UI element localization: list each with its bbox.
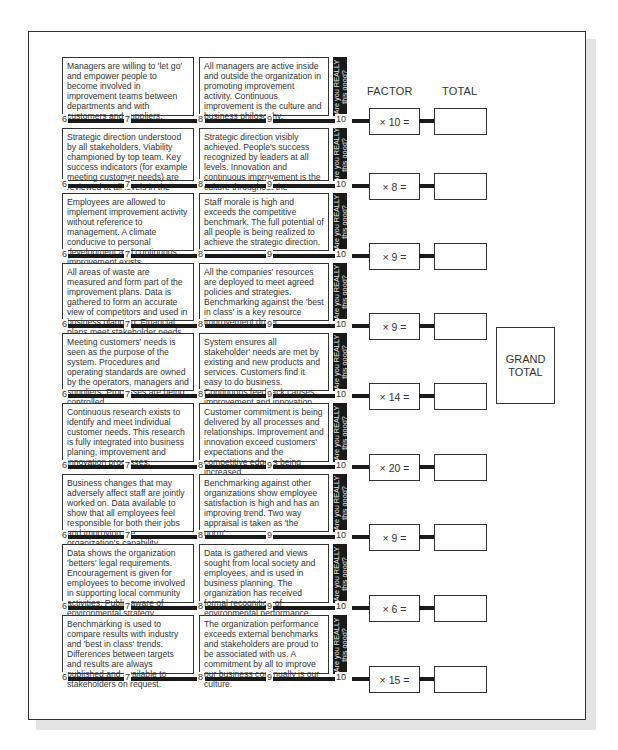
score-scale[interactable]: 6 7 8 9 10 [62,251,354,259]
connector-line [419,535,435,539]
connector-line [419,606,435,610]
scale-bar-8-10[interactable] [205,184,343,188]
total-input-box[interactable] [434,666,487,693]
scale-bar-8-10[interactable] [205,535,343,539]
score-scale[interactable]: 6 7 8 9 10 [62,462,354,470]
scale-label-8: 8 [197,672,204,682]
factor-box: × 9 = [369,524,420,551]
factor-value: × 6 = [383,603,407,615]
factor-box: × 10 = [369,108,420,135]
level-8-9-description: Strategic direction visibly achieved. Pe… [199,128,329,181]
scale-bar-6-8[interactable] [68,606,198,610]
scale-bar-8-10[interactable] [205,677,343,681]
scale-label-7: 7 [124,672,131,682]
level-6-7-description: Meeting customers' needs is seen as the … [62,333,194,391]
scale-label-9: 9 [266,530,273,540]
total-input-box[interactable] [434,173,487,200]
scale-label-9: 9 [266,114,273,124]
scale-label-9: 9 [266,249,273,259]
scale-label-6: 6 [61,114,68,124]
scale-label-7: 7 [124,249,131,259]
score-scale[interactable]: 6 7 8 9 10 [62,116,354,124]
factor-value: × 15 = [380,674,410,686]
level-6-7-description: Strategic direction understood by all st… [62,128,194,181]
scale-bar-6-8[interactable] [68,465,198,469]
strip-text-line2: this good? [340,265,348,320]
factor-box: × 8 = [369,173,420,200]
level-6-7-description: Employees are allowed to implement impro… [62,193,194,251]
scale-label-9: 9 [266,601,273,611]
connector-line [419,677,435,681]
total-input-box[interactable] [434,313,487,340]
scale-label-6: 6 [61,601,68,611]
scale-bar-6-8[interactable] [68,254,198,258]
scale-label-7: 7 [124,114,131,124]
scale-bar-8-10[interactable] [205,254,343,258]
scale-label-8: 8 [197,530,204,540]
total-input-box[interactable] [434,454,487,481]
scale-label-6: 6 [61,179,68,189]
scale-label-7: 7 [124,389,131,399]
scale-label-10: 10 [335,114,347,124]
score-scale[interactable]: 6 7 8 9 10 [62,321,354,329]
factor-value: × 9 = [383,321,407,333]
scale-label-6: 6 [61,319,68,329]
strip-text-line2: this good? [340,476,348,531]
score-scale[interactable]: 6 7 8 9 10 [62,391,354,399]
really-this-good-strip: Are you REALLYthis good? [333,193,347,251]
level-6-7-description: Continuous research exists to identify a… [62,403,194,462]
scale-label-6: 6 [61,672,68,682]
total-input-box[interactable] [434,595,487,622]
factor-box: × 14 = [369,383,420,410]
score-scale[interactable]: 6 7 8 9 10 [62,603,354,611]
scale-label-10: 10 [335,319,347,329]
scale-label-8: 8 [197,389,204,399]
score-scale[interactable]: 6 7 8 9 10 [62,674,354,682]
grand-total-label-line1: GRAND [506,353,546,366]
level-8-9-description: Staff morale is high and exceeds the com… [199,193,329,251]
scale-label-8: 8 [197,460,204,470]
level-8-9-description: Benchmarking against other organizations… [199,474,329,532]
scale-bar-6-8[interactable] [68,535,198,539]
factor-box: × 9 = [369,313,420,340]
scale-bar-8-10[interactable] [205,465,343,469]
grand-total-box[interactable]: GRAND TOTAL [496,327,555,404]
score-scale[interactable]: 6 7 8 9 10 [62,181,354,189]
factor-value: × 20 = [380,462,410,474]
connector-line [419,324,435,328]
scale-bar-6-8[interactable] [68,394,198,398]
really-this-good-strip: Are you REALLYthis good? [333,474,347,532]
total-input-box[interactable] [434,243,487,270]
scale-bar-8-10[interactable] [205,119,343,123]
score-scale[interactable]: 6 7 8 9 10 [62,532,354,540]
total-input-box[interactable] [434,108,487,135]
strip-text-line2: this good? [340,405,348,460]
scale-bar-6-8[interactable] [68,677,198,681]
total-input-box[interactable] [434,524,487,551]
level-8-9-description: Customer commitment is being delivered b… [199,403,329,462]
scale-label-9: 9 [266,672,273,682]
scale-label-10: 10 [335,389,347,399]
scale-bar-6-8[interactable] [68,184,198,188]
scale-label-7: 7 [124,601,131,611]
scale-bar-8-10[interactable] [205,324,343,328]
scale-label-8: 8 [197,249,204,259]
factor-box: × 20 = [369,454,420,481]
connector-line [419,465,435,469]
scale-bar-8-10[interactable] [205,394,343,398]
scale-bar-8-10[interactable] [205,606,343,610]
scale-label-10: 10 [335,179,347,189]
level-6-7-description: All areas of waste are measured and form… [62,263,194,321]
strip-text-line2: this good? [340,546,348,601]
scale-bar-6-8[interactable] [68,119,198,123]
scale-label-9: 9 [266,389,273,399]
total-input-box[interactable] [434,383,487,410]
scale-bar-6-8[interactable] [68,324,198,328]
scale-label-8: 8 [197,319,204,329]
scale-label-10: 10 [335,249,347,259]
scale-label-8: 8 [197,601,204,611]
strip-text-line2: this good? [340,195,348,250]
connector-line [419,254,435,258]
scale-label-6: 6 [61,389,68,399]
scale-label-7: 7 [124,460,131,470]
